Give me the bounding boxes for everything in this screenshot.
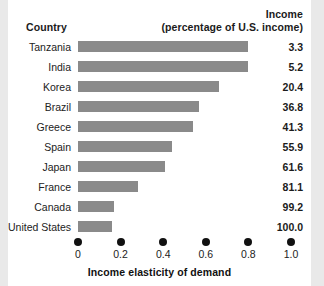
bar-track xyxy=(78,58,291,78)
row-label-country: Japan xyxy=(8,161,71,173)
row-label-country: Canada xyxy=(8,201,71,213)
x-axis-tick-label: 0.8 xyxy=(228,248,268,260)
row-label-country: France xyxy=(8,181,71,193)
chart-row: Brazil36.8 xyxy=(8,98,311,118)
chart-row: India5.2 xyxy=(8,58,311,78)
row-value-income: 3.3 xyxy=(288,41,303,53)
bar-track xyxy=(78,178,291,198)
x-axis-tick-label: 0.6 xyxy=(186,248,226,260)
row-value-income: 99.2 xyxy=(283,201,303,213)
x-axis-tick-label: 0.4 xyxy=(143,248,183,260)
row-value-income: 55.9 xyxy=(283,141,303,153)
row-label-country: United States xyxy=(8,221,71,233)
bar-rows: Tanzania3.3India5.2Korea20.4Brazil36.8Gr… xyxy=(8,38,311,238)
column-header-income: Income (percentage of U.S. income) xyxy=(161,8,303,33)
column-header-country: Country xyxy=(26,21,67,33)
tick-dot-icon xyxy=(287,238,295,246)
row-value-income: 61.6 xyxy=(283,161,303,173)
bar xyxy=(78,161,165,172)
row-value-income: 5.2 xyxy=(288,61,303,73)
row-value-income: 81.1 xyxy=(283,181,303,193)
bar xyxy=(78,201,114,212)
row-label-country: Brazil xyxy=(8,101,71,113)
chart-row: United States100.0 xyxy=(8,218,311,238)
chart-row: Canada99.2 xyxy=(8,198,311,218)
bar xyxy=(78,141,172,152)
tick-dot-icon xyxy=(159,238,167,246)
tick-dot-icon xyxy=(74,238,82,246)
tick-dot-icon xyxy=(202,238,210,246)
chart-row: Japan61.6 xyxy=(8,158,311,178)
bar xyxy=(78,121,193,132)
row-value-income: 36.8 xyxy=(283,101,303,113)
row-label-country: Spain xyxy=(8,141,71,153)
x-axis-tick-label: 0 xyxy=(58,248,98,260)
chart-row: Korea20.4 xyxy=(8,78,311,98)
bar-track xyxy=(78,158,291,178)
bar-track xyxy=(78,138,291,158)
bar xyxy=(78,61,248,72)
row-label-country: Greece xyxy=(8,121,71,133)
bar xyxy=(78,101,199,112)
chart-row: Greece41.3 xyxy=(8,118,311,138)
row-label-country: Tanzania xyxy=(8,41,71,53)
bar-track xyxy=(78,78,291,98)
x-axis-title: Income elasticity of demand xyxy=(8,266,311,278)
bar-track xyxy=(78,198,291,218)
row-value-income: 20.4 xyxy=(283,81,303,93)
bar-track xyxy=(78,38,291,58)
bar xyxy=(78,181,138,192)
row-label-country: India xyxy=(8,61,71,73)
x-axis-tick-label: 0.2 xyxy=(101,248,141,260)
x-axis-tick-label: 1.0 xyxy=(271,248,311,260)
bar xyxy=(78,81,219,92)
tick-dot-icon xyxy=(117,238,125,246)
bar-track xyxy=(78,218,291,238)
row-value-income: 41.3 xyxy=(283,121,303,133)
chart-figure: Income (percentage of U.S. income) Count… xyxy=(8,0,311,286)
row-value-income: 100.0 xyxy=(277,221,303,233)
chart-row: Spain55.9 xyxy=(8,138,311,158)
bar-track xyxy=(78,98,291,118)
column-header-income-line1: Income xyxy=(161,8,303,21)
bar xyxy=(78,221,112,232)
x-axis: 00.20.40.60.81.0 xyxy=(78,238,291,286)
column-header-income-line2: (percentage of U.S. income) xyxy=(161,21,303,34)
tick-dot-icon xyxy=(244,238,252,246)
row-label-country: Korea xyxy=(8,81,71,93)
bar-track xyxy=(78,118,291,138)
chart-row: Tanzania3.3 xyxy=(8,38,311,58)
bar xyxy=(78,41,248,52)
chart-row: France81.1 xyxy=(8,178,311,198)
